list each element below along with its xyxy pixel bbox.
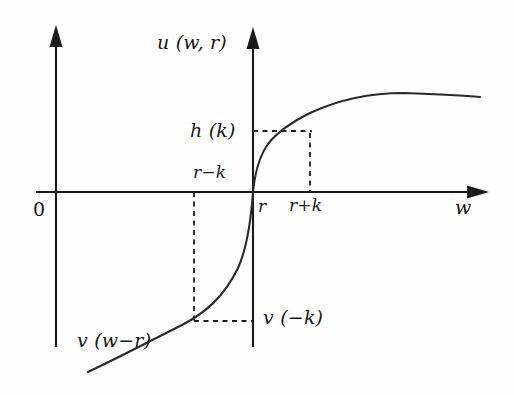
y-axis-arrow-icon — [247, 27, 260, 49]
left-axis-arrow-icon — [50, 25, 63, 47]
origin-label: 0 — [33, 200, 45, 219]
figure-canvas: u (w, r) h (k) r−k 0 r r+k w v (−k) v (w… — [0, 0, 514, 395]
reference-plus-k-label: r+k — [289, 197, 322, 214]
gain-level-label: h (k) — [190, 121, 236, 140]
left-vertical-axis — [50, 25, 63, 347]
reference-label: r — [258, 198, 266, 215]
loss-level-label: v (−k) — [263, 308, 323, 327]
y-axis-label: u (w, r) — [157, 33, 227, 52]
x-axis-label: w — [455, 198, 471, 217]
reference-minus-k-label: r−k — [193, 164, 226, 181]
curve-label: v (w−r) — [77, 331, 151, 350]
